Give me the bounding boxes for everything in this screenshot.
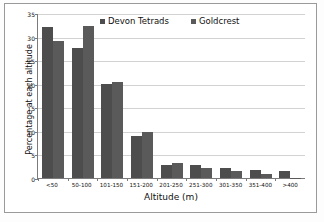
x-tick-label: 50-100 <box>67 182 97 188</box>
x-tick-label: 301-350 <box>216 182 246 188</box>
x-tick-mark <box>38 178 39 181</box>
bar <box>83 26 94 178</box>
x-tick-mark <box>97 178 98 181</box>
y-tick-label: 25 <box>27 58 35 65</box>
x-tick-label: 251-300 <box>186 182 216 188</box>
bar-group <box>275 14 305 178</box>
bar <box>161 165 172 178</box>
bar-group <box>68 14 98 178</box>
bar <box>131 136 142 178</box>
bar-group <box>186 14 216 178</box>
bar <box>142 132 153 178</box>
bar <box>261 174 272 178</box>
x-tick-label: 151-200 <box>126 182 156 188</box>
x-tick-label: >400 <box>275 182 305 188</box>
x-tick-mark <box>246 178 247 181</box>
x-tick-mark <box>68 178 69 181</box>
y-tick-label: 10 <box>27 128 35 135</box>
y-tick-label: 0 <box>31 176 35 183</box>
bar-group <box>246 14 276 178</box>
bar-group <box>97 14 127 178</box>
bar <box>231 171 242 178</box>
y-tick-label: 20 <box>27 81 35 88</box>
bar <box>190 165 201 178</box>
y-tick-label: 30 <box>27 34 35 41</box>
bar <box>72 48 83 178</box>
bar <box>101 84 112 178</box>
x-tick-label: <50 <box>37 182 67 188</box>
x-tick-mark <box>127 178 128 181</box>
bar-group <box>216 14 246 178</box>
bar <box>42 27 53 178</box>
x-tick-mark <box>275 178 276 181</box>
chart-figure: Percentage at each altitude Devon Tetrad… <box>0 0 324 222</box>
x-axis-tick-labels: <5050-100101-150151-200201-250251-300301… <box>37 182 305 188</box>
x-tick-mark <box>216 178 217 181</box>
plot-area: 05101520253035 <box>37 14 305 179</box>
bar-group <box>157 14 187 178</box>
bar <box>201 168 212 178</box>
bar <box>279 171 290 178</box>
bar <box>220 168 231 178</box>
x-axis-title: Altitude (m) <box>37 192 305 202</box>
bar-group <box>127 14 157 178</box>
bar <box>172 163 183 178</box>
x-tick-label: 351-400 <box>245 182 275 188</box>
x-tick-mark <box>186 178 187 181</box>
bar <box>53 41 64 178</box>
bar <box>250 170 261 178</box>
bar <box>112 82 123 178</box>
x-tick-mark <box>157 178 158 181</box>
bar-group <box>38 14 68 178</box>
x-tick-label: 101-150 <box>97 182 127 188</box>
bar-groups <box>38 14 305 178</box>
y-tick-label: 35 <box>27 11 35 18</box>
y-tick-label: 5 <box>31 152 35 159</box>
x-tick-label: 201-250 <box>156 182 186 188</box>
y-tick-label: 15 <box>27 105 35 112</box>
